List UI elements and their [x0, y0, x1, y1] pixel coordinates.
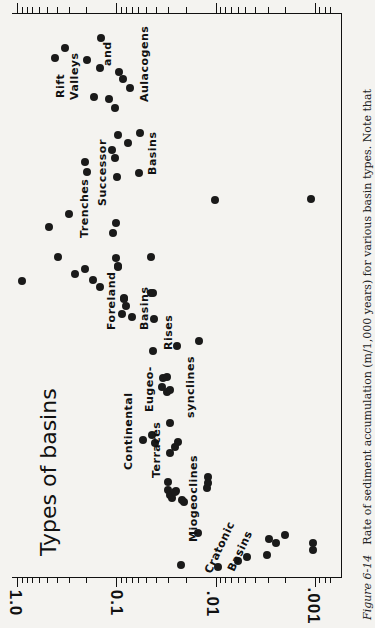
data-point	[126, 84, 134, 92]
data-point	[113, 173, 121, 181]
label-successor-basins: Basins	[146, 131, 159, 175]
minor-tick	[146, 577, 147, 583]
minor-tick	[121, 577, 122, 583]
minor-tick	[319, 7, 320, 13]
data-point	[166, 449, 174, 457]
minor-tick	[47, 7, 48, 13]
figure-caption: Figure 6-14Rate of sediment accumulation…	[361, 89, 374, 620]
label-foreland: Foreland	[105, 272, 118, 330]
data-point	[147, 253, 155, 261]
data-point	[118, 310, 126, 318]
minor-tick	[32, 7, 33, 13]
minor-tick	[86, 577, 87, 583]
tick-label-0.1: 0.1	[106, 590, 126, 617]
data-point	[61, 44, 69, 52]
minor-tick	[325, 7, 326, 13]
minor-tick	[255, 577, 256, 583]
major-tick	[216, 577, 217, 587]
minor-tick	[330, 7, 331, 13]
minor-tick	[86, 7, 87, 13]
label-successor: Successor	[96, 139, 109, 206]
data-point	[281, 531, 289, 539]
data-point	[211, 196, 219, 204]
minor-tick	[255, 7, 256, 13]
data-point	[171, 488, 179, 496]
tick-label-0.001: .001	[303, 587, 323, 624]
data-point	[195, 337, 203, 345]
minor-tick	[325, 577, 326, 583]
data-point	[124, 139, 132, 147]
data-point	[90, 93, 98, 101]
label-and: and	[101, 41, 114, 66]
data-point	[135, 169, 143, 177]
data-point	[128, 313, 136, 321]
minor-tick	[121, 7, 122, 13]
minor-tick	[245, 7, 246, 13]
minor-tick	[39, 577, 40, 583]
label-synclines: synclines	[184, 356, 197, 418]
caption-text: Rate of sediment accumulation (m/1,000 y…	[361, 89, 374, 545]
minor-tick	[220, 577, 221, 583]
tick-label-0.01: .01	[202, 591, 222, 618]
major-tick	[116, 577, 117, 587]
minor-tick	[156, 7, 157, 13]
minor-tick	[231, 7, 232, 13]
data-point	[112, 219, 120, 227]
data-point	[164, 478, 172, 486]
minor-tick	[22, 577, 23, 583]
data-point	[149, 347, 157, 355]
right-frame-line	[341, 13, 342, 578]
data-point	[150, 315, 158, 323]
data-point	[272, 539, 280, 547]
minor-tick	[69, 577, 70, 583]
major-tick	[116, 3, 117, 13]
minor-tick	[132, 577, 133, 583]
minor-tick	[138, 577, 139, 583]
value-axis-line	[12, 577, 342, 578]
minor-tick	[138, 7, 139, 13]
figure-number: Figure 6-14	[361, 555, 374, 620]
minor-tick	[186, 577, 187, 583]
data-point	[83, 56, 91, 64]
data-point	[81, 158, 89, 166]
data-point	[65, 210, 73, 218]
label-foreland-basins: Basins	[138, 286, 151, 330]
minor-tick	[69, 7, 70, 13]
minor-tick	[57, 577, 58, 583]
data-point	[263, 551, 271, 559]
label-aulacogens: Aulacogens	[138, 26, 151, 102]
minor-tick	[27, 7, 28, 13]
data-point	[309, 546, 317, 554]
minor-tick	[319, 577, 320, 583]
data-point	[166, 386, 174, 394]
minor-tick	[225, 7, 226, 13]
major-tick	[17, 577, 18, 587]
minor-tick	[168, 7, 169, 13]
label-rises: Rises	[162, 315, 175, 350]
minor-tick	[32, 577, 33, 583]
minor-tick	[132, 7, 133, 13]
minor-tick	[47, 577, 48, 583]
minor-tick	[27, 577, 28, 583]
minor-tick	[186, 7, 187, 13]
tick-label-1: 1.0	[5, 590, 25, 617]
label-eugeo: Eugeo-	[143, 366, 156, 412]
data-point	[18, 277, 26, 285]
data-point	[51, 54, 59, 62]
label-continental: Continental	[122, 392, 135, 470]
data-point	[114, 131, 122, 139]
minor-tick	[126, 7, 127, 13]
chart-title: Types of basins	[36, 388, 61, 556]
label-miogeoclines: Miogeoclines	[187, 455, 200, 542]
minor-tick	[245, 577, 246, 583]
data-point	[163, 373, 171, 381]
data-point	[177, 561, 185, 569]
minor-tick	[285, 577, 286, 583]
data-point	[109, 229, 117, 237]
data-point	[89, 276, 97, 284]
minor-tick	[238, 7, 239, 13]
data-point	[71, 270, 79, 278]
data-point	[45, 223, 53, 231]
data-point	[122, 302, 130, 310]
data-point	[114, 262, 122, 270]
